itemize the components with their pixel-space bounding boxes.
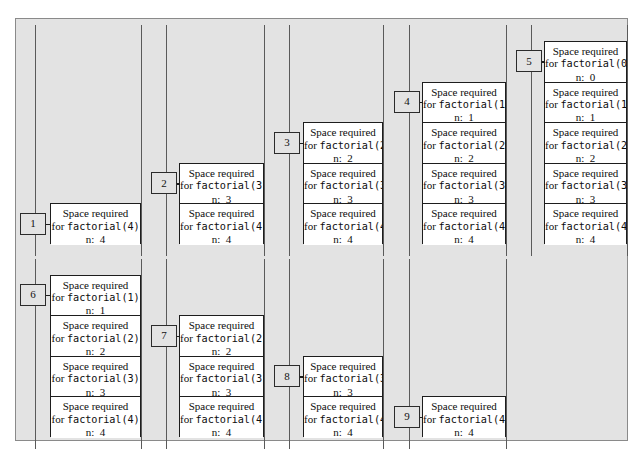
frame-line-space-required: Space required <box>545 86 626 98</box>
frame-line-space-required: Space required <box>180 167 263 179</box>
stack-frame: Space requiredfor factorial(1)n: 1 <box>51 276 140 317</box>
stack-wall-right <box>264 25 265 256</box>
frame-line-space-required: Space required <box>180 207 263 219</box>
stack-frame: Space requiredfor factorial(3)n: 3 <box>423 164 505 205</box>
frame-line-space-required: Space required <box>304 207 382 219</box>
frame-line-call: for factorial(3) <box>304 372 382 385</box>
frame-line-n-value: n: 1 <box>545 111 626 123</box>
stack-frame: Space requiredfor factorial(2)n: 2 <box>545 123 626 164</box>
stack-wall-left <box>166 259 167 449</box>
frame-line-space-required: Space required <box>180 319 263 331</box>
frame-line-call: for factorial(4) <box>545 220 626 233</box>
frame-line-call: for factorial(1) <box>51 291 140 304</box>
frame-line-space-required: Space required <box>51 360 140 372</box>
stack-7: Space requiredfor factorial(2)n: 2Space … <box>179 315 264 437</box>
frame-line-space-required: Space required <box>51 207 140 219</box>
stack-frame: Space requiredfor factorial(3)n: 3 <box>304 164 382 205</box>
stack-wall-right <box>264 259 265 449</box>
frame-line-space-required: Space required <box>423 400 505 412</box>
badge-connector-line <box>177 183 179 185</box>
stack-frame: Space requiredfor factorial(2)n: 2 <box>51 316 140 357</box>
stack-8: Space requiredfor factorial(3)n: 3Space … <box>303 356 383 437</box>
stack-wall-right <box>627 25 628 256</box>
stack-frame: Space requiredfor factorial(0)n: 0 <box>545 42 626 83</box>
stack-frame: Space requiredfor factorial(2)n: 2 <box>304 123 382 164</box>
frame-line-n-value: n: 4 <box>304 426 382 438</box>
stack-wall-right <box>506 259 507 449</box>
frame-line-n-value: n: 4 <box>51 233 140 245</box>
frame-line-call: for factorial(0) <box>545 57 626 70</box>
frame-line-call: for factorial(2) <box>304 139 382 152</box>
frame-line-n-value: n: 2 <box>51 345 140 357</box>
badge-connector-line <box>542 61 544 63</box>
stack-frame: Space requiredfor factorial(3)n: 3 <box>304 357 382 398</box>
badge-connector-line <box>177 336 179 338</box>
stack-wall-right <box>141 259 142 449</box>
stack-frame: Space requiredfor factorial(4)n: 4 <box>304 204 382 245</box>
frame-line-space-required: Space required <box>545 126 626 138</box>
stack-frame: Space requiredfor factorial(4)n: 4 <box>51 397 140 438</box>
frame-line-n-value: n: 4 <box>304 233 382 245</box>
frame-line-n-value: n: 2 <box>304 152 382 164</box>
stack-frame: Space requiredfor factorial(3)n: 3 <box>180 357 263 398</box>
frame-line-call: for factorial(4) <box>423 413 505 426</box>
frame-line-n-value: n: 3 <box>180 386 263 398</box>
frame-line-call: for factorial(2) <box>180 332 263 345</box>
frame-line-space-required: Space required <box>545 207 626 219</box>
frame-line-space-required: Space required <box>51 279 140 291</box>
stack-frame: Space requiredfor factorial(1)n: 1 <box>545 83 626 124</box>
stack-4: Space requiredfor factorial(1)n: 1Space … <box>422 82 506 244</box>
frame-line-n-value: n: 3 <box>304 386 382 398</box>
frame-line-space-required: Space required <box>423 207 505 219</box>
stack-frame: Space requiredfor factorial(4)n: 4 <box>180 397 263 438</box>
frame-line-n-value: n: 2 <box>545 152 626 164</box>
frame-line-call: for factorial(3) <box>51 372 140 385</box>
snapshot-number-badge-2: 2 <box>151 172 177 194</box>
frame-line-call: for factorial(3) <box>545 179 626 192</box>
frame-line-n-value: n: 4 <box>180 233 263 245</box>
frame-line-n-value: n: 3 <box>423 193 505 205</box>
frame-line-n-value: n: 3 <box>304 193 382 205</box>
frame-line-call: for factorial(2) <box>51 332 140 345</box>
stack-wall-right <box>383 25 384 256</box>
frame-line-space-required: Space required <box>51 400 140 412</box>
snapshot-number-badge-8: 8 <box>274 365 300 387</box>
frame-line-call: for factorial(1) <box>423 98 505 111</box>
snapshot-number-badge-3: 3 <box>274 132 300 154</box>
frame-line-n-value: n: 2 <box>423 152 505 164</box>
stack-wall-right <box>141 25 142 256</box>
stack-wall-left <box>166 25 167 256</box>
snapshot-number-badge-1: 1 <box>20 213 46 235</box>
frame-line-n-value: n: 4 <box>51 426 140 438</box>
frame-line-n-value: n: 3 <box>51 386 140 398</box>
stack-wall-right <box>383 259 384 449</box>
frame-line-n-value: n: 1 <box>51 304 140 316</box>
stack-1: Space requiredfor factorial(4)n: 4 <box>50 203 141 244</box>
frame-line-space-required: Space required <box>51 319 140 331</box>
stack-wall-left <box>289 259 290 449</box>
frame-line-space-required: Space required <box>180 400 263 412</box>
frame-line-n-value: n: 4 <box>423 233 505 245</box>
stack-wall-left <box>409 25 410 256</box>
frame-line-call: for factorial(3) <box>180 372 263 385</box>
stack-frame: Space requiredfor factorial(3)n: 3 <box>545 164 626 205</box>
stack-6: Space requiredfor factorial(1)n: 1Space … <box>50 275 141 437</box>
stack-frame: Space requiredfor factorial(4)n: 4 <box>423 204 505 245</box>
frame-line-space-required: Space required <box>304 167 382 179</box>
badge-connector-line <box>46 224 50 226</box>
frame-line-space-required: Space required <box>545 167 626 179</box>
snapshot-number-badge-7: 7 <box>151 325 177 347</box>
frame-line-call: for factorial(4) <box>304 413 382 426</box>
frame-line-n-value: n: 4 <box>423 426 505 438</box>
frame-line-space-required: Space required <box>304 400 382 412</box>
frame-line-space-required: Space required <box>545 45 626 57</box>
stack-frame: Space requiredfor factorial(1)n: 1 <box>423 83 505 124</box>
frame-line-space-required: Space required <box>423 86 505 98</box>
badge-connector-line <box>420 417 422 419</box>
stack-9: Space requiredfor factorial(4)n: 4 <box>422 396 506 437</box>
stack-frame: Space requiredfor factorial(4)n: 4 <box>545 204 626 245</box>
frame-line-n-value: n: 3 <box>545 193 626 205</box>
frame-line-n-value: n: 2 <box>180 345 263 357</box>
frame-line-n-value: n: 4 <box>180 426 263 438</box>
stack-frame: Space requiredfor factorial(4)n: 4 <box>51 204 140 245</box>
